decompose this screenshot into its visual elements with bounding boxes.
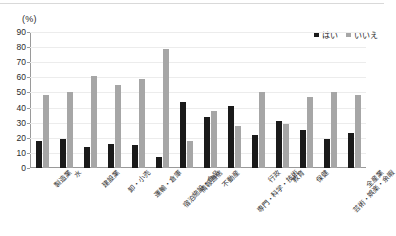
bar-no <box>235 126 241 168</box>
bar-no <box>355 95 361 168</box>
bar-group <box>270 32 294 168</box>
bar-group <box>54 32 78 168</box>
y-axis-tick-label: 60 <box>17 73 26 82</box>
bar-group <box>318 32 342 168</box>
bar-no <box>91 76 97 168</box>
bar-yes <box>36 141 42 168</box>
bar-yes <box>84 147 90 168</box>
y-axis-tick <box>27 47 30 48</box>
bar-yes <box>156 157 162 168</box>
bar-group <box>30 32 54 168</box>
bar-yes <box>348 133 354 168</box>
bar-group <box>246 32 270 168</box>
x-axis-label: 不動産 <box>221 169 241 189</box>
bar-group <box>174 32 198 168</box>
bar-group <box>342 32 366 168</box>
y-axis-tick-label: 30 <box>17 118 26 127</box>
y-axis-tick-label: 70 <box>17 58 26 67</box>
y-axis-tick <box>27 108 30 109</box>
y-axis-tick <box>27 92 30 93</box>
y-axis-tick <box>27 153 30 154</box>
x-axis-category-labels: 製造業水建設業卸・小売運輸・倉庫宿泊施設・食品情報通信不動産専門・科学・技術行政… <box>30 169 366 236</box>
bar-yes <box>252 135 258 168</box>
bar-group <box>198 32 222 168</box>
bar-yes <box>228 106 234 168</box>
bar-group <box>78 32 102 168</box>
bar-no <box>139 79 145 168</box>
bar-yes <box>180 102 186 168</box>
bar-no <box>283 124 289 168</box>
bar-group <box>126 32 150 168</box>
x-axis-label: 水 <box>73 169 83 179</box>
bar-yes <box>276 121 282 168</box>
bar-yes <box>204 117 210 168</box>
y-axis-tick-label: 20 <box>17 134 26 143</box>
bar-yes <box>60 139 66 168</box>
bar-no <box>67 92 73 168</box>
bar-yes <box>132 145 138 168</box>
bar-yes <box>324 139 330 168</box>
bar-group <box>222 32 246 168</box>
bar-no <box>163 49 169 168</box>
bar-group <box>150 32 174 168</box>
bar-no <box>331 92 337 168</box>
bar-no <box>259 92 265 168</box>
bar-yes <box>108 144 114 168</box>
bar-no <box>211 111 217 168</box>
x-axis-label: 行政 <box>267 169 282 184</box>
x-axis-label: 運輸・倉庫 <box>153 169 183 199</box>
bar-yes <box>300 130 306 168</box>
y-axis-tick-label: 40 <box>17 103 26 112</box>
y-axis-tick <box>27 62 30 63</box>
bar-no <box>187 141 193 168</box>
y-axis-tick-label: 10 <box>17 149 26 158</box>
bar-no <box>43 95 49 168</box>
y-axis-tick-label: 0 <box>21 164 26 173</box>
bar-no <box>115 85 121 168</box>
bars-layer <box>30 32 366 168</box>
y-axis-tick <box>27 32 30 33</box>
x-axis-label: 卸・小売 <box>127 169 152 194</box>
y-axis-tick-label: 80 <box>17 43 26 52</box>
y-axis-tick-labels: 9080706050403020100 <box>6 32 26 168</box>
y-axis-tick-label: 90 <box>17 28 26 37</box>
bar-no <box>307 97 313 168</box>
x-axis-label: 製造業 <box>53 169 73 189</box>
bar-group <box>294 32 318 168</box>
y-axis-tick <box>27 123 30 124</box>
x-axis-label: 建設業 <box>101 169 121 189</box>
y-axis-unit-caption: (%) <box>22 14 37 24</box>
y-axis-tick <box>27 138 30 139</box>
y-axis-tick-label: 50 <box>17 88 26 97</box>
plot-area <box>30 32 366 168</box>
bar-group <box>102 32 126 168</box>
x-axis-label: 保健 <box>315 169 330 184</box>
y-axis-tick <box>27 77 30 78</box>
